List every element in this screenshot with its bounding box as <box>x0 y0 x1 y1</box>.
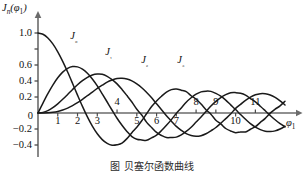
x-tick-label-7: 7 <box>170 116 182 127</box>
curve-label-J3: J₃ <box>177 55 184 68</box>
curve-J0 <box>38 33 285 145</box>
y-tick-label-0.4: 0.4 <box>0 76 32 87</box>
x-tick-label-1: 1 <box>52 116 64 127</box>
x-tick-label-11: 11 <box>249 97 261 108</box>
x-tick-label-4: 4 <box>111 97 123 108</box>
curve-label-J1: J₁ <box>105 47 112 60</box>
y-tick-label-1.0: 1.0 <box>0 28 32 39</box>
x-tick-label-8: 8 <box>190 97 202 108</box>
x-tick-label-10: 10 <box>230 116 242 127</box>
y-tick-label--0.4: −0.4 <box>0 140 32 151</box>
y-axis-label: Jn(φ1) <box>2 3 27 16</box>
y-tick-label-0.2: 0.2 <box>0 92 32 103</box>
y-axis-arrow <box>35 11 42 18</box>
x-tick-label-5: 5 <box>131 116 143 127</box>
curve-label-J0: J₀ <box>70 31 77 44</box>
y-tick-label-0.6: 0.6 <box>0 60 32 71</box>
curve-J2 <box>38 74 285 138</box>
x-tick-label-6: 6 <box>151 116 163 127</box>
x-axis-label: φ1 <box>286 118 295 131</box>
x-tick-label-2: 2 <box>72 116 84 127</box>
x-axis-arrow <box>296 110 303 117</box>
x-tick-label-3: 3 <box>91 116 103 127</box>
curve-label-J2: J₂ <box>141 55 148 68</box>
y-tick-label--0.2: −0.2 <box>0 124 32 135</box>
bessel-function-figure: Jn(φ1) φ1 图 贝塞尔函数曲线 −0.4−0.20.20.40.61.0… <box>0 0 304 173</box>
x-tick-label-9: 9 <box>210 97 222 108</box>
bessel-plot-svg <box>0 0 304 173</box>
figure-caption: 图 贝塞尔函数曲线 <box>0 158 304 173</box>
origin-label: 0 <box>0 111 33 122</box>
